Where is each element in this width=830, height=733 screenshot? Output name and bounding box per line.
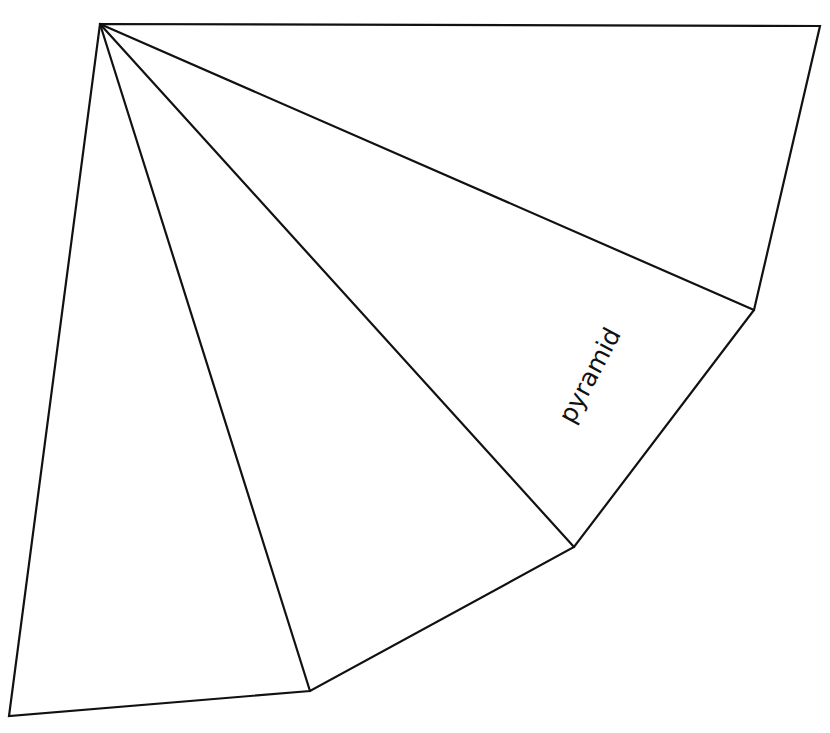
fold-line-3	[100, 24, 754, 310]
fold-line-2	[100, 24, 574, 547]
fold-line-1	[100, 24, 310, 691]
pyramid-net-diagram: pyramid	[0, 0, 830, 733]
pyramid-label: pyramid	[553, 323, 627, 428]
